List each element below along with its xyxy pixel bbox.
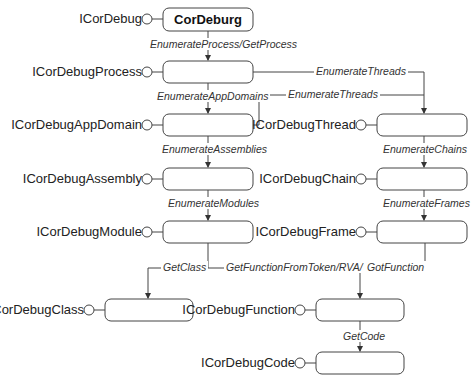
chain-box [377, 168, 467, 190]
thread-box [377, 114, 467, 136]
interface-label-process: ICorDebugProcess [32, 64, 142, 79]
interface-label-icordebug: ICorDebug [79, 11, 142, 26]
edge-label-enumerate-frames: EnumerateFrames [381, 197, 472, 209]
edge-label-enumerate-threads-appdomain: EnumerateThreads [286, 88, 380, 100]
appdomain-box [163, 114, 253, 136]
edge-label-get-function-from-token: GetFunctionFromToken/RVA/ [224, 261, 365, 273]
edge-label-enumerate-threads-process: EnumerateThreads [314, 65, 408, 77]
process-box [163, 61, 253, 83]
interface-label-function: ICorDebugFunction [182, 302, 295, 317]
edge-label-enumerate-process: EnumerateProcess/GetProcess [148, 38, 299, 50]
edge-label-get-class: GetClass [161, 261, 208, 273]
function-box [316, 299, 404, 321]
diagram-connectors [0, 0, 476, 385]
edge-label-enumerate-chains: EnumerateChains [381, 143, 469, 155]
interface-label-frame: ICorDebugFrame [256, 224, 356, 239]
interface-label-code: ICorDebugCode [201, 355, 295, 370]
edge-label-get-function: GotFunction [365, 261, 426, 273]
class-box [105, 299, 193, 321]
cordebug-title: CorDeburg [163, 12, 253, 27]
edge-label-enumerate-modules: EnumerateModules [166, 197, 261, 209]
code-box [316, 352, 404, 374]
assembly-box [163, 168, 253, 190]
interface-label-appdomain: ICorDebugAppDomain [11, 117, 142, 132]
edge-label-enumerate-assemblies: EnumerateAssemblies [160, 143, 269, 155]
interface-label-assembly: ICorDebugAssembly [23, 171, 142, 186]
interface-label-class: ICorDebugClass [0, 302, 84, 317]
frame-box [377, 221, 467, 243]
interface-label-chain: ICorDebugChain [259, 171, 356, 186]
interface-label-thread: ICorDebugThread [252, 117, 356, 132]
edge-label-enumerate-appdomains: EnumerateAppDomains [155, 90, 270, 102]
module-box [163, 221, 253, 243]
interface-label-module: ICorDebugModule [36, 224, 142, 239]
edge-label-get-code: GetCode [341, 330, 387, 342]
